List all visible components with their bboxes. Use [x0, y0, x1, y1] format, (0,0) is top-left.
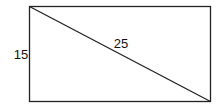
diagonal-length-label: 25: [114, 36, 128, 51]
rectangle-diagram: 15 25: [0, 0, 220, 109]
side-length-label: 15: [14, 47, 28, 62]
